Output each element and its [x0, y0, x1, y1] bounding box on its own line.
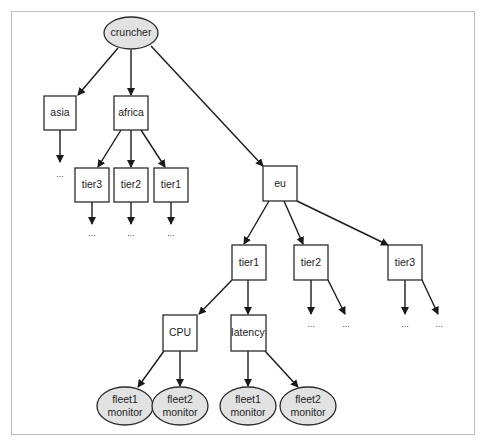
node-label: latency — [231, 326, 265, 338]
node-label: cruncher — [111, 26, 152, 38]
edge-eu-tier1 — [244, 201, 269, 244]
node-label: tier3 — [82, 178, 103, 190]
edge-tier1-cpu — [199, 280, 232, 314]
node-label-line2: monitor — [230, 406, 266, 418]
node-label: tier1 — [239, 256, 260, 268]
node-asia: asia — [44, 96, 76, 130]
node-label-line1: fleet2 — [295, 393, 321, 405]
node-label-line1: fleet1 — [112, 393, 138, 405]
tree-diagram: cruncher asia africa ... tier3 tier2 tie… — [0, 0, 487, 446]
edge-eu-tier2 — [284, 201, 303, 244]
node-africa-tier1: tier1 — [154, 168, 188, 202]
node-label: eu — [274, 177, 286, 189]
edge-eu-tier3-more-b — [422, 280, 438, 314]
node-label: tier1 — [161, 178, 182, 190]
ellipsis-asia: ... — [56, 169, 64, 179]
ellipsis-africa-tier3: ... — [88, 228, 96, 238]
edge-cpu-fleet1 — [138, 351, 164, 387]
node-label: CPU — [169, 326, 191, 338]
ellipsis-eu-tier3-a: ... — [401, 319, 409, 329]
node-label-line2: monitor — [290, 406, 326, 418]
node-label-line2: monitor — [107, 406, 143, 418]
node-cpu: CPU — [163, 315, 197, 351]
edge-latency-fleet2 — [265, 351, 298, 387]
edge-africa-tier1 — [141, 130, 165, 167]
node-africa-tier2: tier2 — [114, 168, 148, 202]
node-eu-tier3: tier3 — [388, 245, 422, 280]
node-eu-tier2: tier2 — [294, 245, 328, 280]
edge-cruncher-eu — [151, 46, 263, 166]
edge-africa-tier3 — [98, 130, 121, 167]
node-cruncher: cruncher — [104, 17, 158, 49]
node-africa-tier3: tier3 — [75, 168, 109, 202]
node-label-line1: fleet2 — [167, 393, 193, 405]
node-cpu-fleet2-monitor: fleet2 monitor — [152, 387, 208, 425]
edge-eu-tier2-more-b — [328, 280, 345, 314]
node-latency: latency — [231, 315, 266, 351]
node-africa: africa — [114, 96, 148, 130]
node-label: tier3 — [395, 256, 416, 268]
node-latency-fleet2-monitor: fleet2 monitor — [280, 387, 336, 425]
node-cpu-fleet1-monitor: fleet1 monitor — [97, 387, 153, 425]
ellipsis-eu-tier2-b: ... — [342, 319, 350, 329]
edge-eu-tier3 — [297, 201, 388, 245]
node-latency-fleet1-monitor: fleet1 monitor — [220, 387, 276, 425]
node-label-line2: monitor — [162, 406, 198, 418]
ellipsis-eu-tier3-b: ... — [435, 319, 443, 329]
node-label: tier2 — [121, 178, 142, 190]
node-label-line1: fleet1 — [235, 393, 261, 405]
ellipsis-eu-tier2-a: ... — [307, 319, 315, 329]
node-label: asia — [50, 106, 69, 118]
edge-cruncher-asia — [78, 48, 118, 95]
ellipsis-africa-tier1: ... — [167, 228, 175, 238]
node-eu: eu — [263, 166, 297, 201]
node-label: tier2 — [301, 256, 322, 268]
node-label: africa — [118, 106, 144, 118]
node-eu-tier1: tier1 — [232, 245, 266, 280]
ellipsis-africa-tier2: ... — [127, 228, 135, 238]
